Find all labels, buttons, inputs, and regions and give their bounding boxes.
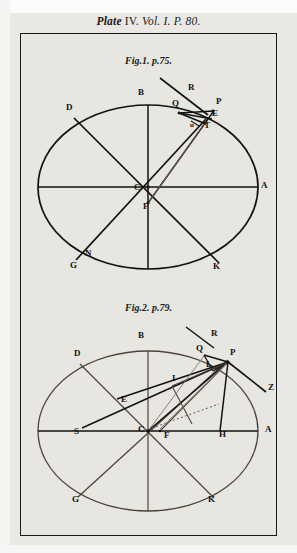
fig1-point-f: F xyxy=(143,201,149,211)
fig1-point-k: K xyxy=(213,261,220,271)
fig2-point-p: P xyxy=(230,347,236,357)
figure-2-line-ip xyxy=(172,362,228,386)
fig2-point-r: R xyxy=(211,328,218,338)
fig2-point-b: B xyxy=(138,330,144,340)
fig2-point-z: Z xyxy=(268,382,274,392)
fig1-point-q: Q xyxy=(172,98,179,108)
figure-1-chord-qp xyxy=(179,111,214,113)
fig2-point-h: H xyxy=(219,429,226,439)
figure-2-line-pz xyxy=(228,362,266,392)
fig2-point-c: C xyxy=(138,424,145,434)
fig1-point-c: C xyxy=(134,182,141,192)
fig2-point-l: L xyxy=(206,359,212,369)
figure-1-focal-radius-ft xyxy=(148,124,204,203)
fig1-point-u: u xyxy=(190,121,194,129)
figure-2-perpendicular-hp xyxy=(220,362,228,431)
fig1-point-p: P xyxy=(216,96,222,106)
plate-engraving: BDRQPETuACFNGKBDRQPLZIESCFHAGK xyxy=(0,0,297,553)
fig2-point-g: G xyxy=(72,494,79,504)
fig1-point-d: D xyxy=(66,102,73,112)
fig1-point-a: A xyxy=(261,180,268,190)
fig2-point-f: F xyxy=(164,430,170,440)
fig2-point-i: I xyxy=(172,373,176,383)
figure-2-focus-dot xyxy=(159,430,162,433)
figure-1-point-q-dot xyxy=(178,112,181,115)
fig2-point-e: E xyxy=(121,394,127,404)
figure-1-diameter-dk xyxy=(74,118,219,263)
fig1-point-n: N xyxy=(85,248,92,258)
figure-2-point-p-dot xyxy=(226,360,229,363)
fig2-point-k: K xyxy=(208,494,215,504)
fig1-point-g: G xyxy=(70,260,77,270)
fig2-point-q: Q xyxy=(196,343,203,353)
fig1-point-b: B xyxy=(138,87,144,97)
figure-1-center-dot xyxy=(146,185,150,189)
figure-2-center-dot xyxy=(146,429,150,433)
fig1-point-e: E xyxy=(212,108,218,118)
fig2-point-d: D xyxy=(74,348,81,358)
fig2-point-s: S xyxy=(74,426,79,436)
fig2-point-a: A xyxy=(265,424,272,434)
figure-2-dotted-construction xyxy=(152,404,219,428)
fig1-point-t: T xyxy=(204,120,210,130)
engraved-plate-page: Plate IV. Vol. I. P. 80. Fig.1. p.75. Fi… xyxy=(0,0,297,553)
figure-2-line-cp xyxy=(148,362,228,431)
figure-2-line-i-foot xyxy=(172,386,192,424)
fig1-point-r: R xyxy=(188,82,195,92)
